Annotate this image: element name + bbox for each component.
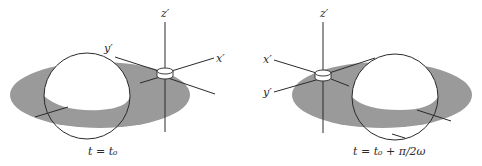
y-axis-label-left: y′ — [103, 42, 113, 55]
sphere-upper-left — [44, 53, 130, 110]
z-axis-label-left: z′ — [160, 7, 170, 20]
gyroscope-disk-right — [315, 70, 331, 81]
panel-right: z′ x′ y′ t = t₀ + π/2ω — [262, 7, 472, 158]
caption-left: t = t₀ — [88, 145, 118, 158]
caption-right: t = t₀ + π/2ω — [353, 145, 426, 158]
rotating-frame-diagram: z′ y′ x′ t = t₀ z′ x′ y′ t = t₀ + π/2ω — [0, 0, 482, 166]
z-axis-label-right: z′ — [319, 7, 329, 20]
panel-left: z′ y′ x′ t = t₀ — [10, 7, 225, 158]
x-axis-label-right: x′ — [263, 53, 272, 66]
gyroscope-disk-left — [157, 68, 173, 79]
sphere-upper-right — [352, 54, 438, 110]
inner-chord-right — [392, 134, 405, 138]
x-axis-label-left: x′ — [216, 52, 225, 65]
y-axis-label-right: y′ — [262, 86, 272, 99]
